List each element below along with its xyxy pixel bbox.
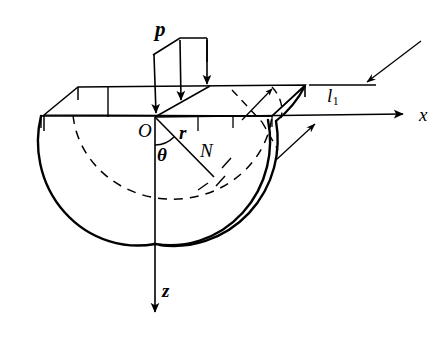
origin-label: O — [138, 121, 152, 140]
hidden-depth-edges — [232, 87, 282, 150]
load-label: p — [155, 19, 166, 40]
point-label: N — [200, 141, 213, 160]
radius-label: r — [179, 123, 186, 142]
l1-dimension-label: l1 — [327, 86, 339, 107]
l1-main: l — [327, 85, 332, 106]
loaded-strip — [155, 86, 210, 117]
diagram-canvas — [0, 0, 444, 347]
x-axis-label: x — [419, 105, 427, 124]
l1-leader-arrow — [367, 41, 421, 82]
l1-dimension-arrow — [276, 124, 315, 160]
top-face — [44, 85, 305, 116]
right-end-depth-edge — [272, 85, 305, 116]
l1-subscript: 1 — [333, 95, 339, 108]
theta-label: θ — [157, 145, 167, 164]
interior-reference-lines — [198, 116, 272, 131]
engineering-diagram: p O r N θ x z l1 — [0, 0, 444, 347]
hidden-back-arc — [73, 115, 272, 199]
z-axis-label: z — [162, 281, 169, 300]
